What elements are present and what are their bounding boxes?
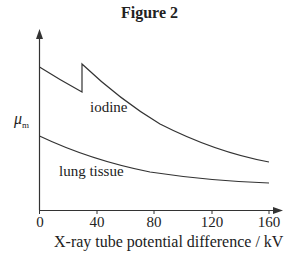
y-axis-arrow-icon — [36, 29, 43, 39]
x-tick-80: 80 — [147, 214, 162, 231]
label-lung-tissue: lung tissue — [59, 163, 124, 180]
x-tick-160: 160 — [258, 214, 281, 231]
x-tick-0: 0 — [36, 214, 44, 231]
y-axis-label: μm — [14, 110, 29, 130]
series-iodine-line — [40, 64, 270, 162]
x-axis-label: X-ray tube potential difference / kV — [54, 233, 283, 251]
x-tick-120: 120 — [201, 214, 224, 231]
x-tick-40: 40 — [90, 214, 105, 231]
label-iodine: iodine — [90, 99, 128, 116]
x-axis-arrow-icon — [273, 207, 283, 214]
